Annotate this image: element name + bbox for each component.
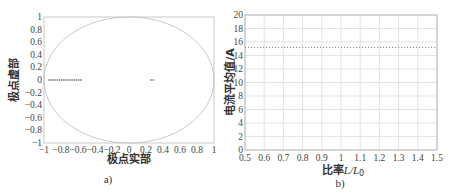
x-tick: 1.1 <box>354 153 366 163</box>
y-tick: −1 <box>32 138 42 148</box>
y-tick: −0.2 <box>25 88 42 98</box>
y-axis-label: 电流平均值/A <box>223 48 237 116</box>
y-tick-labels: 10.80.60.40.20−0.2−0.4−0.6−0.8−1 <box>25 12 42 148</box>
x-tick: 0.6 <box>258 153 270 163</box>
x-tick: 1.3 <box>393 153 405 163</box>
y-tick: 0.2 <box>30 62 42 72</box>
x-tick: 1 <box>339 153 344 163</box>
current-average-plot: 0.50.60.70.80.911.11.21.31.41.5 20181614… <box>223 10 443 190</box>
x-tick: 0.7 <box>277 153 289 163</box>
x-tick: 1 <box>212 145 217 155</box>
y-tick: 18 <box>234 24 244 34</box>
x-axis-label: 极点实部 <box>107 152 151 166</box>
y-tick: 4 <box>238 118 243 128</box>
grid <box>245 15 437 150</box>
x-tick-labels: 0.50.60.70.80.911.11.21.31.41.5 <box>239 153 443 163</box>
y-tick: 0 <box>37 75 42 85</box>
y-axis-label: 极点虚部 <box>7 58 21 102</box>
y-tick: 0.4 <box>30 50 42 60</box>
x-tick: −0.8 <box>52 145 69 155</box>
caption-a: a) <box>104 173 113 186</box>
y-tick: 1 <box>37 12 42 22</box>
y-tick: 6 <box>238 105 243 115</box>
y-tick: 0.6 <box>30 37 42 47</box>
x-tick: 1.5 <box>431 153 443 163</box>
x-tick: 0.8 <box>297 153 309 163</box>
pole-zero-plot: −1−0.8−0.6−0.4−0.200.20.40.60.81 10.80.6… <box>7 12 217 186</box>
y-tick: −0.4 <box>25 100 42 110</box>
x-axis-label: 比率L/L0 <box>322 163 364 178</box>
y-tick: 16 <box>234 37 244 47</box>
y-tick: 0.8 <box>30 25 42 35</box>
x-tick: −0.6 <box>69 145 86 155</box>
x-tick: 0.4 <box>157 145 169 155</box>
y-tick: 2 <box>238 132 243 142</box>
x-tick: 0.6 <box>174 145 186 155</box>
caption-b: b) <box>335 177 345 190</box>
figure: −1−0.8−0.6−0.4−0.200.20.40.60.81 10.80.6… <box>0 0 450 194</box>
y-tick: −0.8 <box>25 125 42 135</box>
x-tick: 0.8 <box>191 145 203 155</box>
y-tick: 0 <box>238 145 243 155</box>
x-tick: −0.4 <box>86 145 103 155</box>
x-tick: 1.2 <box>373 153 385 163</box>
y-tick: −0.6 <box>25 113 42 123</box>
x-tick: 0.9 <box>316 153 328 163</box>
x-tick: 1.4 <box>412 153 424 163</box>
y-tick: 20 <box>234 10 244 20</box>
y-tick: 8 <box>238 91 243 101</box>
